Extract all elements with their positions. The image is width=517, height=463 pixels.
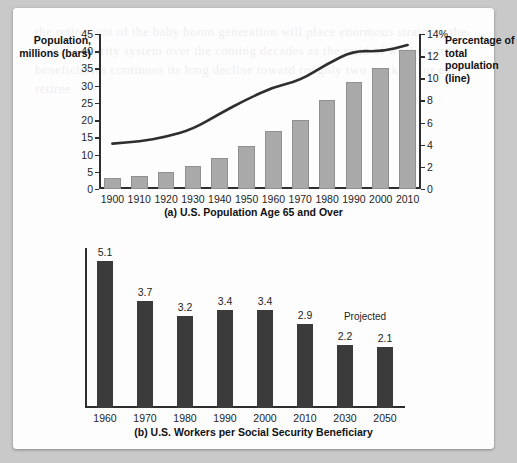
chart-a-y-tick-label: 15 [81,131,93,143]
chart-a-x-tick-label: 1970 [289,193,312,205]
chart-a-y-tick-label: 40 [81,45,93,57]
chart-b-projected-annotation: Projected [344,311,386,322]
chart-a-y-tick [95,189,99,190]
chart-b-x-tick-label: 1970 [133,412,156,424]
chart-a-x-tick-label: 1940 [208,193,231,205]
chart-a-plot-area: 05101520253035404502468101214%1900191019… [99,34,421,189]
chart-b-bar [257,310,273,408]
chart-a-y2-axis-title: Percentage of total population (line) [445,34,517,84]
chart-a-y2-tick-label: 12 [427,50,439,62]
chart-a-y-tick-label: 30 [81,80,93,92]
chart-b-bar-value-label: 3.2 [178,301,193,313]
chart-a-y-tick-label: 10 [81,149,93,161]
chart-b-bar [97,261,113,408]
chart-a-y-tick-label: 25 [81,97,93,109]
chart-b-x-tick-label: 1960 [93,412,116,424]
chart-a-line-series [99,34,421,189]
chart-b-left-axis [85,248,87,408]
chart-b-bar [177,316,193,408]
chart-b-caption: (b) U.S. Workers per Social Security Ben… [13,426,494,438]
chart-b-x-tick-label: 2050 [373,412,396,424]
chart-b-x-tick-label: 1990 [213,412,236,424]
chart-b-bar [377,347,393,408]
chart-b-bar [297,324,313,408]
chart-a-x-tick-label: 1990 [342,193,365,205]
chart-a-y2-tick [421,189,425,190]
chart-a-y2-tick [421,100,425,101]
figure-page: the retirement of the baby boom generati… [13,8,494,449]
chart-b-bar-value-label: 2.9 [298,309,313,321]
chart-a-y2-tick-label: 0 [427,183,433,195]
chart-a-y-tick-label: 20 [81,114,93,126]
chart-b-container: 5.119603.719703.219803.419903.420002.920… [13,226,494,444]
chart-a-x-tick-label: 2000 [369,193,392,205]
chart-b-bar-value-label: 2.1 [378,332,393,344]
chart-a-y-tick-label: 0 [87,183,93,195]
chart-a-y2-tick-label: 10 [427,72,439,84]
chart-b-bar-value-label: 3.7 [138,286,153,298]
chart-b-bar-value-label: 3.4 [218,295,233,307]
chart-b-bar [137,301,153,408]
chart-a-caption: (a) U.S. Population Age 65 and Over [13,206,494,218]
chart-b-bar-value-label: 5.1 [98,246,113,258]
chart-a-y2-tick-label: 8 [427,94,433,106]
chart-a-y2-tick [421,123,425,124]
chart-b-x-tick-label: 2030 [333,412,356,424]
chart-b-x-tick-label: 1980 [173,412,196,424]
chart-b-bar-value-label: 2.2 [338,330,353,342]
chart-a-y2-tick [421,78,425,79]
chart-a-x-tick-label: 1950 [235,193,258,205]
chart-a-y2-axis-title-text: Percentage of total population (line) [445,34,514,84]
chart-a-x-tick-label: 1910 [128,193,151,205]
chart-a-y-tick-label: 45 [81,28,93,40]
chart-a-x-tick-label: 1930 [181,193,204,205]
chart-a-y2-tick [421,167,425,168]
chart-a-y-axis-title-text: Population, millions (bars) [19,34,91,59]
chart-b-bar [217,310,233,408]
chart-a-y2-tick-label: 6 [427,117,433,129]
chart-b-bar-value-label: 3.4 [258,295,273,307]
chart-a-y-tick-label: 35 [81,62,93,74]
chart-a-y2-tick [421,34,425,35]
chart-a-x-tick-label: 1960 [262,193,285,205]
chart-b-baseline [85,406,405,408]
chart-a-x-tick-label: 2010 [396,193,419,205]
chart-a-x-tick-label: 1920 [154,193,177,205]
chart-a-y2-tick-label: 4 [427,139,433,151]
chart-a-y2-tick-label: 2 [427,161,433,173]
chart-a-container: Population, millions (bars) Percentage o… [13,8,494,223]
chart-a-y2-tick [421,145,425,146]
chart-b-x-tick-label: 2010 [293,412,316,424]
chart-a-x-tick-label: 1900 [101,193,124,205]
chart-a-y-axis-title: Population, millions (bars) [19,34,91,59]
chart-a-y-tick-label: 5 [87,166,93,178]
chart-a-y2-tick-label: 14% [427,28,448,40]
chart-a-y2-tick [421,56,425,57]
chart-b-x-tick-label: 2000 [253,412,276,424]
chart-b-plot-area: 5.119603.719703.219803.419903.420002.920… [85,248,405,408]
chart-b-bar [337,345,353,408]
chart-a-x-tick-label: 1980 [315,193,338,205]
